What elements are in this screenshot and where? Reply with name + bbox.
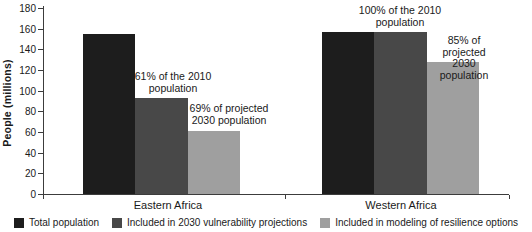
legend-item: Included in 2030 vulnerability projectio… xyxy=(112,217,307,228)
bar-eastern-africa-series-2 xyxy=(135,98,187,194)
y-tick-label: 20 xyxy=(0,168,36,179)
y-tick-label: 180 xyxy=(0,3,36,14)
chart-figure: People (millions) 0204060801001201401601… xyxy=(0,0,532,232)
x-axis-tick xyxy=(509,195,510,199)
legend-swatch-icon xyxy=(320,218,330,228)
x-axis-tick xyxy=(43,195,44,199)
bar-annotation: 61% of the 2010 population xyxy=(135,71,211,94)
y-tick-label: 160 xyxy=(0,24,36,35)
bar-western-africa-series-2 xyxy=(374,32,426,194)
y-axis-tick xyxy=(38,194,43,195)
legend-swatch-icon xyxy=(112,218,122,228)
y-axis-tick xyxy=(38,49,43,50)
y-axis-tick xyxy=(38,70,43,71)
legend-swatch-icon xyxy=(14,218,24,228)
y-axis-tick xyxy=(38,111,43,112)
x-category-label: Western Africa xyxy=(365,199,436,211)
y-tick-label: 120 xyxy=(0,65,36,76)
legend-item: Included in modeling of resilience optio… xyxy=(320,217,518,228)
bar-annotation: 69% of projected 2030 population xyxy=(190,103,269,126)
legend: Total populationIncluded in 2030 vulnera… xyxy=(0,215,532,230)
x-axis-line xyxy=(43,194,509,195)
y-axis-tick xyxy=(38,132,43,133)
bar-annotation: 85% of projected 2030 population xyxy=(430,35,498,81)
bar-eastern-africa-series-1 xyxy=(83,34,135,194)
y-axis-line xyxy=(43,6,44,195)
y-tick-label: 60 xyxy=(0,127,36,138)
x-category-label: Eastern Africa xyxy=(134,199,202,211)
legend-label: Included in modeling of resilience optio… xyxy=(335,217,518,228)
bar-annotation: 100% of the 2010 population xyxy=(359,5,441,28)
bar-western-africa-series-3 xyxy=(427,62,479,194)
bar-western-africa-series-1 xyxy=(322,32,374,194)
y-axis-tick xyxy=(38,91,43,92)
y-axis-tick xyxy=(38,173,43,174)
x-axis-tick xyxy=(285,195,286,199)
y-tick-label: 80 xyxy=(0,106,36,117)
y-tick-label: 40 xyxy=(0,148,36,159)
y-axis-tick xyxy=(38,29,43,30)
y-tick-label: 140 xyxy=(0,44,36,55)
legend-item: Total population xyxy=(14,217,99,228)
bar-eastern-africa-series-3 xyxy=(188,131,240,194)
y-axis-tick xyxy=(38,153,43,154)
y-tick-label: 100 xyxy=(0,86,36,97)
y-tick-label: 0 xyxy=(0,189,36,200)
y-axis-tick xyxy=(38,8,43,9)
legend-label: Total population xyxy=(29,217,99,228)
legend-label: Included in 2030 vulnerability projectio… xyxy=(127,217,307,228)
plot-area: 020406080100120140160180Eastern AfricaWe… xyxy=(0,0,532,232)
